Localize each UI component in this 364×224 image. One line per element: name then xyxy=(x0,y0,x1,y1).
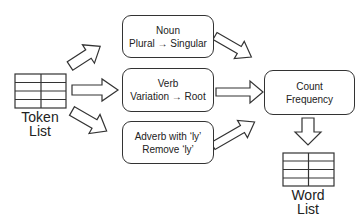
count-title: Count xyxy=(296,80,323,93)
adverb-rule: Remove ‘ly’ xyxy=(142,143,194,156)
noun-rule: Plural → Singular xyxy=(129,37,207,50)
arrow-count-to-wordlist-icon xyxy=(295,118,321,145)
token-list-label: Token List xyxy=(6,110,74,138)
token-list-label-line2: List xyxy=(6,124,74,138)
count-frequency-box: Count Frequency xyxy=(264,70,355,115)
arrow-verb-to-count-icon xyxy=(216,81,263,103)
verb-title: Verb xyxy=(158,77,179,90)
arrow-adverb-to-count-icon xyxy=(208,113,260,154)
token-list-table-icon xyxy=(15,74,66,108)
arrow-to-noun-icon xyxy=(64,37,106,75)
adverb-process-box: Adverb with ‘ly’ Remove ‘ly’ xyxy=(122,121,214,164)
adverb-title: Adverb with ‘ly’ xyxy=(135,130,202,143)
word-list-label-line2: List xyxy=(274,202,342,216)
word-list-label: Word List xyxy=(274,188,342,216)
word-list-table-icon xyxy=(283,153,334,186)
verb-rule: Variation → Root xyxy=(130,90,205,103)
arrow-noun-to-count-icon xyxy=(210,27,256,65)
arrow-to-verb-icon xyxy=(72,79,118,101)
token-list-label-line1: Token xyxy=(6,110,74,124)
noun-title: Noun xyxy=(156,24,180,37)
count-subtitle: Frequency xyxy=(286,93,333,106)
noun-process-box: Noun Plural → Singular xyxy=(122,15,214,58)
word-list-label-line1: Word xyxy=(274,188,342,202)
verb-process-box: Verb Variation → Root xyxy=(122,68,214,112)
